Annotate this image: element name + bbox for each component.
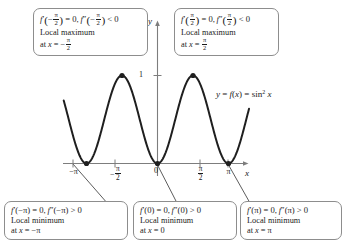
y-tick-label-1: 1 bbox=[139, 70, 143, 79]
x-tick-label-pi-over-2: π2 bbox=[193, 165, 208, 181]
function-label: y = f(x) = sin2 x bbox=[216, 89, 271, 99]
callout-bottom-left-line2: Local minimum bbox=[11, 216, 122, 226]
dot-max-pi-2 bbox=[190, 73, 195, 78]
callout-bottom-right: f′(π) = 0, f″(π) > 0 Local minimum at x … bbox=[240, 201, 342, 240]
callout-top-right: f′(π2) = 0, f″(π2) < 0 Local maximum at … bbox=[174, 8, 279, 56]
callout-top-right-line2: Local maximum bbox=[181, 28, 273, 38]
y-axis-label: y bbox=[148, 16, 152, 26]
callout-top-right-formula: f′(π2) = 0, f″(π2) < 0 bbox=[181, 12, 273, 27]
dot-min-pi bbox=[226, 161, 231, 166]
callout-top-left-line2: Local maximum bbox=[40, 28, 142, 38]
callout-bottom-left-line3: at x = −π bbox=[11, 226, 122, 236]
callout-bottom-left-formula: f′(−π) = 0, f″(−π) > 0 bbox=[11, 205, 122, 215]
callout-bottom-middle: f′(0) = 0, f″(0) > 0 Local minimum at x … bbox=[133, 201, 237, 240]
callout-top-right-line3: at x = π2 bbox=[181, 37, 273, 51]
callout-bottom-right-formula: f′(π) = 0, f″(π) > 0 bbox=[247, 205, 336, 215]
x-tick-label-0: 0 bbox=[150, 166, 162, 175]
callout-bottom-left: f′(−π) = 0, f″(−π) > 0 Local minimum at … bbox=[4, 201, 128, 240]
callout-bottom-right-line3: at x = π bbox=[247, 226, 336, 236]
x-axis-label: x bbox=[245, 168, 249, 178]
x-tick-label-pi: π bbox=[222, 167, 235, 176]
callout-bottom-middle-line2: Local minimum bbox=[140, 216, 231, 226]
callout-bottom-right-line2: Local minimum bbox=[247, 216, 336, 226]
dot-min-neg-pi bbox=[84, 161, 89, 166]
callout-top-left: f′(−π2) = 0, f″(−π2) < 0 Local maximum a… bbox=[33, 8, 148, 56]
x-tick-label--pi-over-2: −π2 bbox=[105, 165, 126, 181]
dot-max-neg-pi-2 bbox=[119, 73, 124, 78]
callout-bottom-middle-formula: f′(0) = 0, f″(0) > 0 bbox=[140, 205, 231, 215]
figure-canvas: y x 1 −π −π2 0 π2 π y = f(x) = sin2 x f′… bbox=[0, 0, 344, 249]
x-tick-label--pi: −π bbox=[65, 167, 82, 176]
callout-top-left-formula: f′(−π2) = 0, f″(−π2) < 0 bbox=[40, 12, 142, 27]
callout-bottom-middle-line3: at x = 0 bbox=[140, 226, 231, 236]
callout-top-left-line3: at x = −π2 bbox=[40, 37, 142, 51]
